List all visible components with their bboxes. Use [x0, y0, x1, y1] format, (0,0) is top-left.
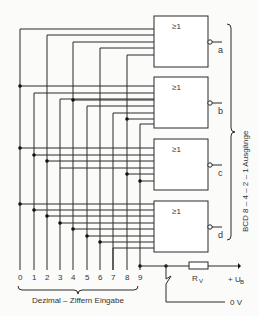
digit-0: 0	[18, 273, 23, 282]
output-d-label: d	[218, 230, 223, 240]
input-brace	[18, 286, 138, 294]
resistor-rv	[189, 262, 208, 269]
digit-9: 9	[138, 273, 143, 282]
input-brace-label: Dezimal – Ziffern Eingabe	[32, 296, 124, 305]
digit-8: 8	[125, 273, 130, 282]
output-b-label: b	[218, 106, 223, 116]
supply-label: + U	[228, 275, 241, 284]
output-brace-label: BCD 8 – 4 – 2 – 1 Ausgänge	[241, 130, 250, 232]
ground-label: 0 V	[230, 298, 243, 307]
supply-sub: B	[240, 279, 244, 285]
resistor-label: R	[192, 274, 198, 283]
output-c-label: c	[218, 168, 223, 178]
supply-circuit: R V + U B 0 V	[140, 262, 244, 307]
digit-4: 4	[71, 273, 76, 282]
digit-labels: 0 1 2 3 4 5 6 7 8 9	[18, 273, 143, 282]
digit-2: 2	[45, 273, 50, 282]
gate-a-symbol: ≥1	[172, 22, 181, 31]
circuit-svg: ≥1 a ≥1 b ≥1 c ≥1 d	[0, 0, 259, 316]
digit-3: 3	[58, 273, 63, 282]
gate-d: ≥1 d	[154, 201, 223, 252]
output-a-label: a	[218, 45, 223, 55]
digit-1: 1	[32, 273, 37, 282]
gate-d-symbol: ≥1	[172, 207, 181, 216]
digit-6: 6	[98, 273, 103, 282]
gate-a: ≥1 a	[154, 16, 223, 67]
digit-7: 7	[111, 273, 116, 282]
gate-c-symbol: ≥1	[172, 145, 181, 154]
encoder-diagram: ≥1 a ≥1 b ≥1 c ≥1 d	[0, 0, 259, 316]
output-brace	[227, 24, 235, 240]
gate-b: ≥1 b	[154, 77, 223, 128]
digit-5: 5	[85, 273, 90, 282]
gate-c: ≥1 c	[154, 139, 223, 190]
resistor-sub: V	[199, 278, 203, 284]
gate-b-symbol: ≥1	[172, 83, 181, 92]
wiring	[18, 29, 168, 270]
